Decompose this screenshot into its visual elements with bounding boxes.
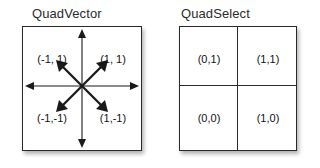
quadselect-label-bottom-left: (0,0) (198, 112, 221, 124)
vector-up-left (61, 65, 82, 86)
quadvector-label-top-right: (1, 1) (100, 53, 126, 65)
quadselect-box (179, 26, 297, 151)
quadvector-vectors (23, 27, 141, 150)
arrowhead-left (25, 82, 34, 90)
quadvector-label-bottom-left: (-1,-1) (37, 112, 67, 124)
quadselect-label-top-right: (1,1) (257, 53, 280, 65)
quadvector-label-top-left: (-1, 1) (37, 53, 66, 65)
vector-down-right (82, 86, 103, 107)
arrowhead-right (130, 82, 139, 90)
quadselect-label-bottom-right: (1,0) (257, 112, 280, 124)
vector-down-left (61, 86, 82, 107)
quadvector-box (22, 26, 142, 151)
panel-title-quadselect: QuadSelect (181, 6, 250, 21)
arrowhead-up (78, 29, 86, 38)
quadvector-label-bottom-right: (1,-1) (100, 112, 126, 124)
panel-title-quadvector: QuadVector (32, 6, 102, 21)
arrowhead-down (78, 139, 86, 148)
quadselect-divider-vertical (237, 27, 238, 150)
quadselect-label-top-left: (0,1) (198, 53, 221, 65)
vector-up-right (82, 65, 103, 86)
quadselect-divider-horizontal (180, 85, 296, 86)
